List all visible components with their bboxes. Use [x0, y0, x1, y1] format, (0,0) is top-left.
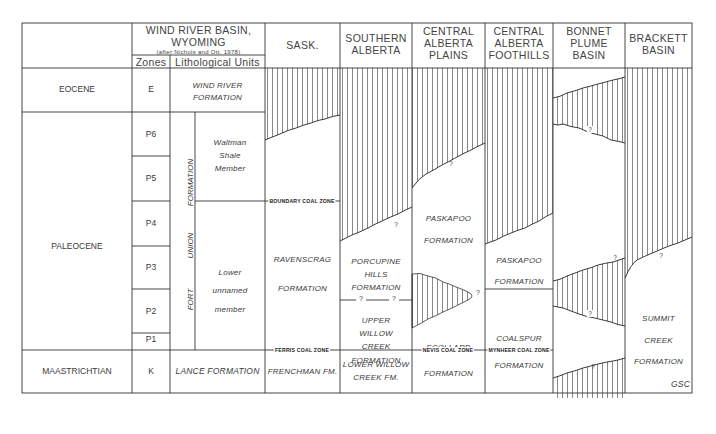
- boundary-coal-zone-label: BOUNDARY COAL ZONE: [268, 198, 335, 204]
- unit-paskapoo-formation-plains: PASKAPOO FORMATION: [412, 208, 485, 253]
- header-zones: Zones: [132, 57, 170, 69]
- unit-upper-willow-line1: UPPER: [340, 314, 412, 327]
- header-bb-line2: BASIN: [625, 45, 692, 57]
- unit-lower-willow-line1: LOWER WILLOW: [340, 359, 412, 372]
- unit-paskapoo-plains-line2: FORMATION: [412, 230, 485, 252]
- wind-river-source-note: (after Nichols and Ott, 1978): [132, 49, 265, 56]
- unit-porcupine-hills-formation: PORCUPINE HILLS FORMATION: [340, 255, 412, 295]
- header-caf-line3: FOOTHILLS: [485, 50, 553, 62]
- uncertain-contact-marker: ?: [587, 310, 593, 317]
- header-southern-alberta: SOUTHERN ALBERTA: [340, 33, 412, 57]
- header-wind-river: WIND RIVER BASIN, WYOMING (after Nichols…: [132, 25, 265, 55]
- uncertain-contact-marker: ?: [448, 160, 454, 167]
- unit-lance-formation: LANCE FORMATION: [170, 367, 265, 377]
- age-eocene: EOCENE: [22, 85, 132, 95]
- header-bp-line3: BASIN: [553, 50, 625, 62]
- header-bonnet-plume-basin: BONNET PLUME BASIN: [553, 26, 625, 61]
- unit-paskapoo-foothills-line2: FORMATION: [485, 272, 553, 293]
- unit-ravenscrag-line2: FORMATION: [265, 275, 340, 304]
- header-sask: SASK.: [265, 40, 340, 52]
- header-bp-line1: BONNET: [553, 26, 625, 38]
- unit-fort-union-fort-label: FORT: [186, 277, 195, 323]
- uncertain-contact-marker: ?: [590, 363, 596, 370]
- unit-porcupine-line1: PORCUPINE: [340, 255, 412, 268]
- unit-porcupine-line2: HILLS: [340, 268, 412, 281]
- zone-p6: P6: [132, 130, 170, 140]
- header-southern-alberta-line1: SOUTHERN: [340, 33, 412, 45]
- zone-p4: P4: [132, 219, 170, 229]
- unit-summit-line1: SUMMIT: [625, 308, 692, 330]
- header-bp-line2: PLUME: [553, 38, 625, 50]
- unit-waltman-line2: Shale: [195, 150, 265, 163]
- hiatus-bonnet-lower: [553, 358, 625, 398]
- unit-lower-willow-creek-fm: LOWER WILLOW CREEK FM.: [340, 359, 412, 385]
- zone-e: E: [132, 85, 170, 95]
- header-central-alberta-foothills: CENTRAL ALBERTA FOOTHILLS: [485, 26, 553, 61]
- zone-p2: P2: [132, 307, 170, 317]
- zone-p3: P3: [132, 263, 170, 273]
- unit-fort-union-union-label: UNION: [186, 223, 195, 269]
- unit-summit-creek-formation: SUMMIT CREEK FORMATION: [625, 308, 692, 373]
- unit-waltman-line3: Member: [195, 163, 265, 176]
- header-brackett-basin: BRACKETT BASIN: [625, 33, 692, 57]
- nevis-coal-zone-label: NEVIS COAL ZONE: [422, 347, 474, 353]
- hiatus-southern-alberta: [340, 68, 412, 241]
- unit-fort-union-formation-label: FORMATION: [186, 153, 195, 213]
- header-cap-line1: CENTRAL: [412, 26, 485, 38]
- unit-wind-river-line1: WIND RIVER: [170, 80, 265, 92]
- age-paleocene: PALEOCENE: [22, 242, 132, 252]
- unit-ravenscrag-line1: RAVENSCRAG: [265, 246, 340, 275]
- header-cap-line2: ALBERTA: [412, 38, 485, 50]
- age-maastrichtian: MAASTRICHTIAN: [22, 367, 132, 377]
- unit-lower-unnamed-line1: Lower: [195, 264, 265, 282]
- unit-paskapoo-foothills-line1: PASKAPOO: [485, 251, 553, 272]
- unit-ravenscrag-formation: RAVENSCRAG FORMATION: [265, 246, 340, 304]
- uncertain-contact-marker: ?: [587, 126, 593, 133]
- unit-lower-unnamed-member: Lower unnamed member: [195, 264, 265, 319]
- zone-p1: P1: [132, 335, 170, 345]
- header-central-alberta-plains: CENTRAL ALBERTA PLAINS: [412, 26, 485, 61]
- header-bb-line1: BRACKETT: [625, 33, 692, 45]
- unit-lower-unnamed-line3: member: [195, 301, 265, 319]
- unit-paskapoo-plains-line1: PASKAPOO: [412, 208, 485, 230]
- unit-porcupine-line3: FORMATION: [340, 281, 412, 294]
- header-southern-alberta-line2: ALBERTA: [340, 45, 412, 57]
- unit-wind-river-formation: WIND RIVER FORMATION: [170, 80, 265, 105]
- uncertain-contact-marker: ?: [389, 295, 399, 303]
- unit-coalspur-line2: FORMATION: [485, 352, 553, 379]
- header-caf-line1: CENTRAL: [485, 26, 553, 38]
- zone-k: K: [132, 367, 170, 377]
- unit-waltman-line1: Waltman: [195, 137, 265, 150]
- wind-river-title-line2: WYOMING: [132, 37, 265, 49]
- unit-paskapoo-formation-foothills: PASKAPOO FORMATION: [485, 251, 553, 293]
- unit-summit-line2: CREEK: [625, 330, 692, 352]
- hiatus-sask: [265, 68, 340, 140]
- uncertain-contact-marker: ?: [474, 289, 482, 297]
- hiatus-brackett: [625, 68, 692, 278]
- uncertain-contact-marker: ?: [658, 252, 664, 259]
- wind-river-title-line1: WIND RIVER BASIN,: [132, 25, 265, 37]
- header-lithological-units: Lithological Units: [170, 57, 265, 69]
- mynheer-coal-zone-label: MYNHEER COAL ZONE: [487, 347, 550, 353]
- unit-upper-willow-line3: CREEK: [340, 340, 412, 353]
- header-cap-line3: PLAINS: [412, 50, 485, 62]
- unit-lower-willow-line2: CREEK FM.: [340, 372, 412, 385]
- unit-wind-river-line2: FORMATION: [170, 92, 265, 104]
- unit-upper-willow-line2: WILLOW: [340, 327, 412, 340]
- unit-scollard-formation: FORMATION: [412, 369, 485, 378]
- unit-lower-unnamed-line2: unnamed: [195, 282, 265, 300]
- hiatus-central-alberta-plains: [412, 68, 485, 188]
- uncertain-contact-marker: ?: [356, 295, 366, 303]
- hiatus-plains-wedge: [412, 273, 472, 328]
- uncertain-contact-marker: ?: [393, 221, 399, 228]
- header-caf-line2: ALBERTA: [485, 38, 553, 50]
- uncertain-contact-marker: ?: [612, 254, 618, 261]
- unit-waltman-shale-member: Waltman Shale Member: [195, 137, 265, 175]
- hiatus-foothills: [485, 68, 553, 244]
- zone-p5: P5: [132, 174, 170, 184]
- unit-frenchman-fm: FRENCHMAN FM.: [265, 367, 340, 376]
- unit-summit-line3: FORMATION: [625, 351, 692, 373]
- ferris-coal-zone-label: FERRIS COAL ZONE: [274, 347, 330, 353]
- gsc-credit: GSC: [664, 380, 690, 390]
